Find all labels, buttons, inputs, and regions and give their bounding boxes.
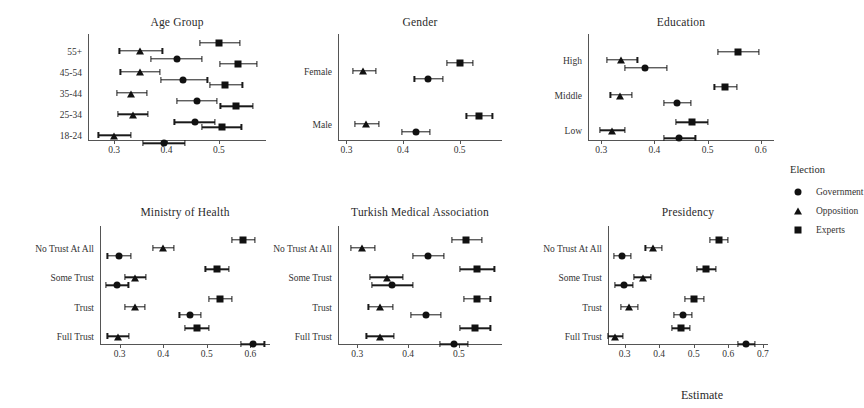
legend-item-experts[interactable]: Experts: [790, 222, 860, 238]
x-axis-caption: Estimate: [681, 388, 723, 403]
government-point-marker: [113, 282, 120, 289]
ci-lower-cap: [220, 103, 221, 109]
experts-point-marker: [691, 295, 698, 302]
experts-point-marker: [688, 119, 695, 126]
y-axis-line: [608, 226, 609, 344]
ci-upper-cap: [146, 90, 147, 96]
legend-key-wrap: [794, 208, 802, 215]
government-point-marker: [180, 76, 187, 83]
ci-upper-cap: [492, 113, 493, 119]
ci-upper-cap: [393, 333, 394, 339]
x-tick: [163, 345, 164, 348]
experts-point-marker: [194, 325, 201, 332]
ci-lower-cap: [125, 274, 126, 280]
ci-lower-cap: [208, 296, 209, 302]
ci-upper-cap: [202, 56, 203, 62]
legend-item-government[interactable]: Government: [790, 184, 860, 200]
ci-lower-cap: [614, 282, 615, 288]
x-tick-label: 0.5: [201, 349, 213, 359]
y-category-label: 18-24: [60, 131, 82, 141]
ci-lower-cap: [614, 253, 615, 259]
y-category-label: Middle: [555, 91, 582, 101]
panel-gender: Gender0.30.40.5FemaleMale: [338, 8, 502, 156]
ci-lower-cap: [107, 333, 108, 339]
ci-lower-cap: [98, 132, 99, 138]
x-tick: [728, 345, 729, 348]
y-category-label: Male: [312, 120, 332, 130]
ci-upper-cap: [128, 282, 129, 288]
ci-lower-cap: [621, 304, 622, 310]
panel-ministry-of-health: Ministry of Health0.30.40.50.6No Trust A…: [100, 206, 270, 366]
x-tick: [625, 345, 626, 348]
experts-point-marker: [218, 124, 225, 131]
x-tick: [654, 141, 655, 144]
y-category-label: Female: [304, 67, 332, 77]
ci-lower-cap: [413, 253, 414, 259]
x-tick-label: 0.3: [108, 145, 120, 155]
experts-point-marker: [235, 60, 242, 67]
ci-lower-cap: [371, 282, 372, 288]
y-axis-line: [588, 34, 589, 140]
opposition-point-marker: [639, 274, 647, 281]
plot-area: 0.30.40.5No Trust At AllSome TrustTrustF…: [338, 226, 502, 366]
ci-upper-cap: [214, 119, 215, 125]
panel-title: Presidency: [608, 206, 768, 218]
ci-upper-cap: [651, 274, 652, 280]
plot-area: 0.30.40.50.6HighMiddleLow: [588, 34, 774, 162]
y-category-label: Trust: [312, 303, 332, 313]
ci-lower-cap: [463, 296, 464, 302]
plot-area: 0.30.40.5FemaleMale: [338, 34, 502, 162]
circle-legend-icon: [795, 189, 802, 196]
x-tick-label: 0.5: [453, 349, 465, 359]
experts-point-marker: [476, 112, 483, 119]
ci-upper-cap: [736, 84, 737, 90]
opposition-point-marker: [136, 69, 144, 76]
ci-upper-cap: [241, 124, 242, 130]
ci-lower-cap: [366, 333, 367, 339]
x-tick: [694, 345, 695, 348]
government-point-marker: [618, 252, 625, 259]
government-point-marker: [249, 341, 256, 348]
y-category-label: No Trust At All: [543, 244, 602, 254]
ci-lower-cap: [354, 121, 355, 127]
ci-upper-cap: [145, 274, 146, 280]
opposition-point-marker: [362, 121, 370, 128]
experts-point-marker: [456, 59, 463, 66]
ci-lower-cap: [240, 341, 241, 347]
experts-point-marker: [215, 39, 222, 46]
ci-upper-cap: [207, 77, 208, 83]
ci-lower-cap: [179, 312, 180, 318]
ci-lower-cap: [607, 333, 608, 339]
opposition-point-marker: [136, 48, 144, 55]
government-point-marker: [115, 252, 122, 259]
y-axis-line: [88, 34, 89, 140]
x-tick: [761, 141, 762, 144]
legend-item-opposition[interactable]: Opposition: [790, 203, 860, 219]
opposition-point-marker: [114, 333, 122, 340]
y-category-label: High: [563, 56, 582, 66]
ci-lower-cap: [663, 135, 664, 141]
ci-lower-cap: [119, 48, 120, 54]
ci-lower-cap: [205, 266, 206, 272]
experts-point-marker: [216, 295, 223, 302]
experts-point-marker: [473, 295, 480, 302]
government-point-marker: [450, 341, 457, 348]
government-point-marker: [174, 55, 181, 62]
ci-upper-cap: [148, 111, 149, 117]
opposition-point-marker: [129, 111, 137, 118]
y-category-label: 55+: [67, 47, 82, 57]
ci-lower-cap: [446, 60, 447, 66]
ci-upper-cap: [695, 135, 696, 141]
x-tick-label: 0.4: [397, 145, 409, 155]
ci-upper-cap: [254, 237, 255, 243]
ci-upper-cap: [481, 237, 482, 243]
ci-upper-cap: [759, 49, 760, 55]
x-tick-label: 0.5: [213, 145, 225, 155]
x-tick-label: 0.4: [157, 349, 169, 359]
ci-lower-cap: [174, 119, 175, 125]
experts-point-marker: [735, 48, 742, 55]
ci-upper-cap: [443, 253, 444, 259]
ci-upper-cap: [374, 245, 375, 251]
ci-lower-cap: [202, 124, 203, 130]
ci-lower-cap: [219, 61, 220, 67]
